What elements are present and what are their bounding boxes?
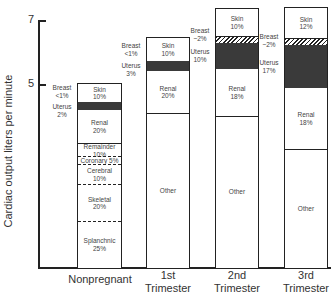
side-label-uterus-3rd: Uterus 17% — [256, 59, 282, 74]
label-value: ~2% — [256, 41, 282, 49]
label-value: 10% — [187, 56, 213, 64]
x-label-3rd-trimester: 3rd Trimester — [266, 269, 331, 295]
label-name: Breast — [118, 42, 144, 50]
segment-label: Other — [298, 205, 314, 213]
segment-renal: Renal 18% — [216, 69, 258, 116]
segment-uterus — [285, 45, 327, 88]
segment-label: Splanchnic — [84, 237, 116, 245]
segment-label: Other — [229, 188, 245, 196]
segment-value: 20% — [93, 203, 106, 211]
segment-skin: Skin 10% — [147, 38, 189, 61]
segment-label: Skin — [93, 86, 106, 94]
bar-nonpregnant: Skin 10% Renal 20% Remainder 10% Coronar… — [77, 83, 122, 269]
segment-skin: Skin 10% — [78, 84, 121, 102]
y-tick-5 — [38, 84, 46, 86]
segment-value: 10% — [161, 50, 174, 58]
segment-uterus — [147, 61, 189, 71]
label-name: Breast — [256, 33, 282, 41]
side-label-breast-1st: Breast <1% — [118, 42, 144, 57]
y-axis-label: Cardiac output liters per minute — [2, 66, 14, 236]
segment-label: Cerebral — [87, 167, 112, 175]
segment-breast — [216, 36, 258, 43]
segment-label: Skin — [300, 16, 313, 24]
segment-label: Skin — [162, 42, 175, 50]
segment-label: Skeletal — [88, 196, 111, 204]
side-label-breast-3rd: Breast ~2% — [256, 33, 282, 48]
side-label-uterus-nonpregnant: Uterus 2% — [49, 103, 75, 118]
segment-value: 12% — [299, 23, 312, 31]
segment-renal: Renal 20% — [78, 110, 121, 143]
label-value: 2% — [49, 111, 75, 119]
label-name: Breast — [187, 27, 213, 35]
segment-value: 18% — [299, 119, 312, 127]
x-label-line1: 1st — [128, 269, 208, 282]
segment-other: Other — [285, 149, 327, 267]
segment-value: 10% — [230, 23, 243, 31]
segment-label: Renal — [229, 85, 246, 93]
y-axis-line — [38, 20, 40, 268]
label-name: Uterus — [49, 103, 75, 111]
segment-uterus — [78, 102, 121, 110]
segment-skin: Skin 12% — [285, 8, 327, 38]
segment-value: 10% — [93, 175, 106, 183]
side-label-uterus-2nd: Uterus 10% — [187, 48, 213, 63]
segment-renal: Renal 18% — [285, 88, 327, 149]
segment-label: Renal — [160, 85, 177, 93]
segment-value: 25% — [93, 245, 106, 253]
bar-3rd-trimester: Skin 12% Renal 18% Other — [284, 7, 328, 269]
side-label-uterus-1st: Uterus 3% — [118, 62, 144, 77]
y-tick-7 — [38, 20, 46, 22]
segment-value: 18% — [230, 93, 243, 101]
segment-label: Other — [160, 187, 176, 195]
segment-label: Renal — [91, 119, 108, 127]
segment-breast — [285, 38, 327, 45]
x-label-line2: Trimester — [266, 282, 331, 295]
segment-skeletal: Skeletal 20% — [78, 184, 121, 221]
x-label-line1: 3rd — [266, 269, 331, 282]
label-name: Breast — [49, 84, 75, 92]
segment-other: Other — [147, 113, 189, 267]
segment-label: Remainder — [84, 143, 116, 151]
side-label-breast-2nd: Breast ~2% — [187, 27, 213, 42]
x-label-line1: 2nd — [197, 269, 277, 282]
x-label-line2: Trimester — [128, 282, 208, 295]
x-label-2nd-trimester: 2nd Trimester — [197, 269, 277, 295]
segment-label: Renal — [298, 111, 315, 119]
label-value: <1% — [49, 92, 75, 100]
segment-cerebral: Cerebral 10% — [78, 164, 121, 184]
label-value: ~2% — [187, 35, 213, 43]
segment-label: Skin — [231, 15, 244, 23]
label-name: Uterus — [256, 59, 282, 67]
segment-splanchnic: Splanchnic 25% — [78, 221, 121, 267]
side-label-breast-nonpregnant: Breast <1% — [49, 84, 75, 99]
label-name: Uterus — [118, 62, 144, 70]
x-label-line2: Trimester — [197, 282, 277, 295]
segment-value: 20% — [161, 92, 174, 100]
label-name: Uterus — [187, 48, 213, 56]
bar-2nd-trimester: Skin 10% Renal 18% Other — [215, 8, 259, 269]
segment-skin: Skin 10% — [216, 9, 258, 36]
bar-1st-trimester: Skin 10% Renal 20% Other — [146, 37, 190, 269]
segment-value: 10% — [93, 93, 106, 101]
label-value: 3% — [118, 70, 144, 78]
segment-value: 20% — [93, 127, 106, 135]
label-value: <1% — [118, 50, 144, 58]
x-label-1st-trimester: 1st Trimester — [128, 269, 208, 295]
y-tick-label-5: 5 — [20, 77, 34, 89]
segment-uterus — [216, 43, 258, 69]
segment-other: Other — [216, 116, 258, 267]
y-tick-label-7: 7 — [20, 13, 34, 25]
segment-remainder: Remainder 10% — [78, 143, 121, 157]
segment-renal: Renal 20% — [147, 71, 189, 113]
label-value: 17% — [256, 67, 282, 75]
